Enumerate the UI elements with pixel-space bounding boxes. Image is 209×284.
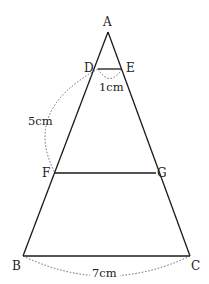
label-g: G [157,166,167,180]
side-ac [108,32,190,256]
label-c: C [191,259,200,273]
side-ab [23,32,108,256]
arc-de-measure [98,69,122,79]
measure-df: 5cm [28,114,53,128]
measure-de: 1cm [99,80,124,94]
label-d: D [84,61,94,75]
label-a: A [102,15,112,29]
label-f: F [42,166,50,180]
triangle-diagram: A D E F G B C 1cm 5cm 7cm [0,0,209,284]
label-e: E [126,61,135,75]
measure-bc: 7cm [92,266,117,280]
arc-df-measure [45,69,98,173]
label-b: B [12,259,21,273]
